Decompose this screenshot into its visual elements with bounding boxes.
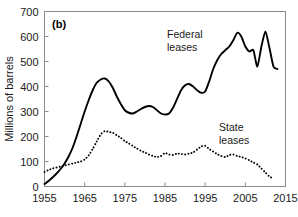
x-tick-label: 1965 [72, 192, 96, 204]
y-tick-label: 700 [20, 6, 38, 18]
y-tick-label: 100 [20, 156, 38, 168]
y-tick-label: 300 [20, 106, 38, 118]
federal-leases-annotation-line2: leases [167, 41, 197, 53]
oil-production-line-chart: 0100200300400500600700 19551965197519851… [0, 0, 298, 217]
federal-leases-annotation-line1: Federal [167, 28, 203, 40]
panel-label: (b) [52, 18, 66, 30]
x-tick-label: 1955 [32, 192, 56, 204]
y-tick-label: 400 [20, 81, 38, 93]
y-tick-label: 600 [20, 31, 38, 43]
state-leases-annotation-line1: State [219, 121, 244, 133]
y-tick-label: 500 [20, 56, 38, 68]
y-axis-title: Millions of barrels [3, 56, 15, 142]
figure-panel-b: 0100200300400500600700 19551965197519851… [0, 0, 298, 217]
state-leases-annotation-line2: leases [219, 134, 249, 146]
x-tick-label: 2015 [273, 192, 297, 204]
x-tick-label: 1975 [113, 192, 137, 204]
x-tick-label: 1995 [193, 192, 217, 204]
y-tick-label: 200 [20, 131, 38, 143]
x-tick-label: 2005 [233, 192, 257, 204]
x-tick-label: 1985 [153, 192, 177, 204]
